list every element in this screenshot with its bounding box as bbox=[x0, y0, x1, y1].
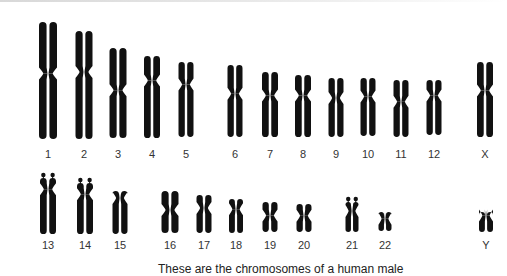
chromosome-label: 1 bbox=[45, 148, 51, 160]
chromosome-label: X bbox=[481, 148, 488, 160]
chromosome-17 bbox=[197, 195, 212, 233]
chromosome-x bbox=[477, 62, 493, 137]
chromosome-label: 10 bbox=[362, 148, 374, 160]
chromosome-12 bbox=[427, 80, 442, 135]
chromosome-20 bbox=[297, 204, 312, 232]
chromosome-21 bbox=[346, 197, 359, 232]
chromosome-6 bbox=[228, 65, 243, 137]
chromosome-8 bbox=[295, 75, 311, 137]
chromosome-label: 19 bbox=[264, 239, 276, 251]
chromosome-22 bbox=[379, 212, 392, 231]
chromosome-label: 7 bbox=[267, 148, 273, 160]
chromosome-label: 3 bbox=[115, 148, 121, 160]
chromosome-9 bbox=[329, 78, 344, 137]
chromosome-7 bbox=[262, 72, 278, 137]
chromosome-label: 9 bbox=[333, 148, 339, 160]
chromosome-label: 8 bbox=[300, 148, 306, 160]
chromosome-10 bbox=[361, 78, 376, 136]
chromosome-label: 16 bbox=[164, 239, 176, 251]
chromosome-11 bbox=[393, 80, 408, 137]
chromosome-label: 15 bbox=[114, 239, 126, 251]
figure-caption: These are the chromosomes of a human mal… bbox=[158, 262, 403, 276]
chromosome-label: 18 bbox=[230, 239, 242, 251]
chromosome-14 bbox=[77, 178, 93, 234]
chromosome-16 bbox=[162, 191, 179, 233]
chromosome-label: 5 bbox=[183, 148, 189, 160]
chromosome-label: 2 bbox=[81, 148, 87, 160]
chromosome-19 bbox=[263, 202, 278, 232]
chromosome-13 bbox=[40, 173, 56, 234]
chromosome-5 bbox=[179, 62, 194, 137]
chromosome-2 bbox=[76, 31, 93, 139]
chromosome-18 bbox=[229, 199, 243, 233]
chromosome-label: 21 bbox=[346, 239, 358, 251]
chromosome-label: 17 bbox=[198, 239, 210, 251]
chromosome-y bbox=[479, 210, 493, 232]
chromosome-label: 13 bbox=[42, 239, 54, 251]
chromosome-label: 12 bbox=[428, 148, 440, 160]
chromosome-label: 22 bbox=[379, 239, 391, 251]
chromosome-label: 14 bbox=[79, 239, 91, 251]
chromosome-1 bbox=[39, 22, 57, 139]
chromosome-4 bbox=[144, 56, 160, 138]
chromosome-label: 4 bbox=[149, 148, 155, 160]
chromosome-label: 11 bbox=[395, 148, 406, 160]
chromosome-label: 6 bbox=[232, 148, 238, 160]
chromosome-label: Y bbox=[482, 239, 489, 251]
chromosome-3 bbox=[110, 48, 127, 138]
chromosome-label: 20 bbox=[298, 239, 310, 251]
chromosome-15 bbox=[113, 191, 128, 234]
